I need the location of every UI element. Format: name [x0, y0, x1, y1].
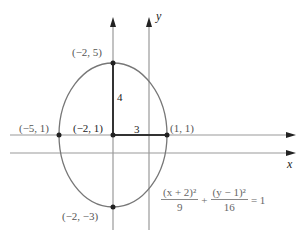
fraction-y-term: (y − 1)² 16 — [211, 186, 248, 213]
denominator: 16 — [224, 200, 235, 213]
denominator: 9 — [177, 200, 183, 213]
arrowhead-icon — [286, 132, 296, 138]
plus-sign: + — [201, 194, 207, 206]
ellipse-equation: (x + 2)² 9 + (y − 1)² 16 = 1 — [158, 186, 265, 213]
point-center — [111, 133, 116, 138]
x-axis-label: x — [287, 158, 292, 170]
label-left-point: (−5, 1) — [19, 123, 49, 134]
label-top-point: (−2, 5) — [72, 47, 102, 58]
equals-one: = 1 — [251, 194, 265, 206]
arrowhead-icon — [146, 17, 152, 27]
label-center-point: (−2, 1) — [73, 123, 103, 134]
arrowhead-icon — [286, 150, 296, 156]
numerator: (y − 1)² — [211, 186, 248, 200]
y-axis-label: y — [156, 10, 161, 22]
fraction-x-term: (x + 2)² 9 — [161, 186, 198, 213]
label-right-point: (1, 1) — [170, 123, 194, 134]
point-left — [57, 133, 62, 138]
point-right — [165, 133, 170, 138]
label-horizontal-radius: 3 — [134, 124, 140, 135]
point-bottom — [111, 205, 116, 210]
point-top — [111, 61, 116, 66]
label-vertical-radius: 4 — [117, 92, 123, 103]
numerator: (x + 2)² — [161, 186, 198, 200]
label-bottom-point: (−2, −3) — [62, 211, 98, 222]
arrowhead-icon — [110, 17, 116, 27]
